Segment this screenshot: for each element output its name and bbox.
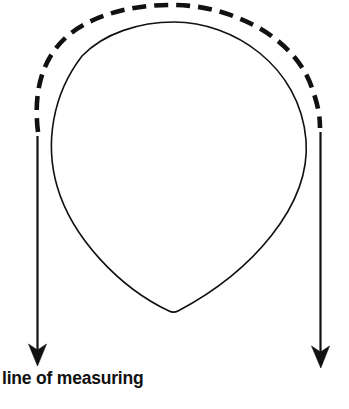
dashed-measuring-arc [37, 5, 320, 132]
teardrop-outline [51, 22, 306, 312]
figure-canvas [0, 0, 349, 409]
left-measuring-arrow [29, 136, 47, 366]
measuring-line-figure: line of measuring [0, 0, 349, 409]
right-measuring-arrow [312, 132, 330, 368]
clipped-next-line [2, 400, 232, 409]
figure-caption: line of measuring [2, 370, 144, 388]
